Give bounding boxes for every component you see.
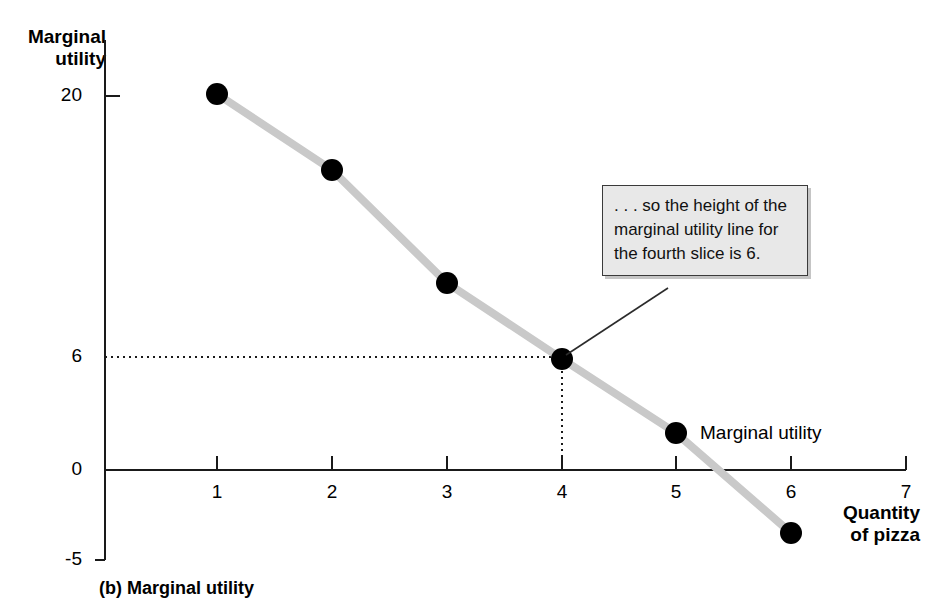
- y-tick-label-6: 6: [22, 345, 82, 367]
- x-tick-label-3: 3: [427, 481, 467, 503]
- data-point-5: [665, 422, 687, 444]
- y-tick-label-0: 0: [22, 458, 82, 480]
- data-point-3: [436, 272, 458, 294]
- data-point-2: [321, 159, 343, 181]
- data-point-4: [551, 348, 573, 370]
- series-label-marginal-utility: Marginal utility: [700, 422, 821, 444]
- x-tick-label-5: 5: [656, 481, 696, 503]
- x-tick-label-4: 4: [542, 481, 582, 503]
- annotation-text: . . . so the height of the marginal util…: [614, 196, 787, 263]
- x-tick-label-1: 1: [197, 481, 237, 503]
- x-tick-label-6: 6: [771, 481, 811, 503]
- y-tick-label-20: 20: [22, 84, 82, 106]
- marginal-utility-chart-figure: Marginal utility Quantity of pizza: [0, 0, 926, 613]
- x-tick-label-7: 7: [886, 481, 926, 503]
- figure-caption: (b) Marginal utility: [99, 578, 254, 599]
- marginal-utility-line: [217, 94, 791, 533]
- data-point-1: [206, 83, 228, 105]
- data-point-6: [780, 522, 802, 544]
- plot-area: [0, 0, 926, 613]
- annotation-callout: . . . so the height of the marginal util…: [602, 185, 808, 276]
- y-tick-label-minus-5: -5: [22, 548, 82, 570]
- x-tick-label-2: 2: [312, 481, 352, 503]
- callout-connector-line: [566, 288, 668, 355]
